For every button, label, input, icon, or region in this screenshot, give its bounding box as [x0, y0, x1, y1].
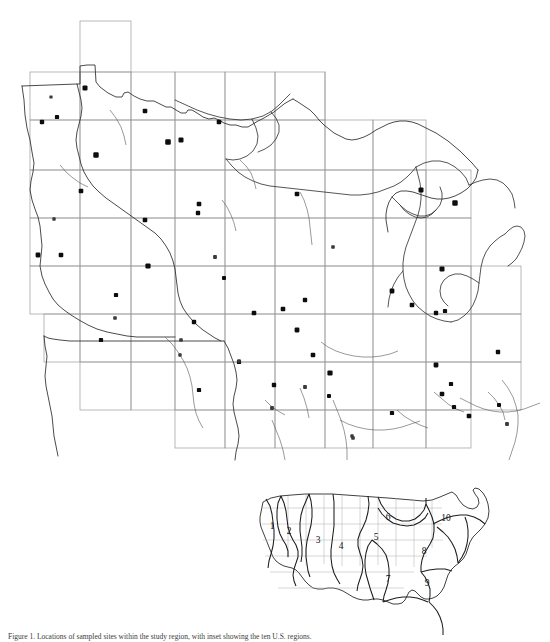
inset-region-label-2: 2: [287, 526, 292, 536]
figure-caption: Figure 1. Locations of sampled sites wit…: [8, 632, 542, 642]
us-regions-inset: 12345678910: [0, 0, 550, 642]
inset-region-label-4: 4: [339, 541, 344, 551]
inset-region-label-9: 9: [425, 578, 430, 588]
inset-region-label-1: 1: [270, 521, 275, 531]
inset-region-label-6: 6: [386, 512, 391, 522]
inset-region-label-8: 8: [422, 546, 427, 556]
inset-region-label-10: 10: [441, 513, 451, 523]
inset-region-label-7: 7: [386, 574, 391, 584]
inset-region-label-3: 3: [316, 535, 321, 545]
inset-region-label-5: 5: [374, 532, 379, 542]
figure-container: 12345678910 Figure 1. Locations of sampl…: [0, 0, 550, 642]
inset-us-outline: [260, 488, 489, 604]
